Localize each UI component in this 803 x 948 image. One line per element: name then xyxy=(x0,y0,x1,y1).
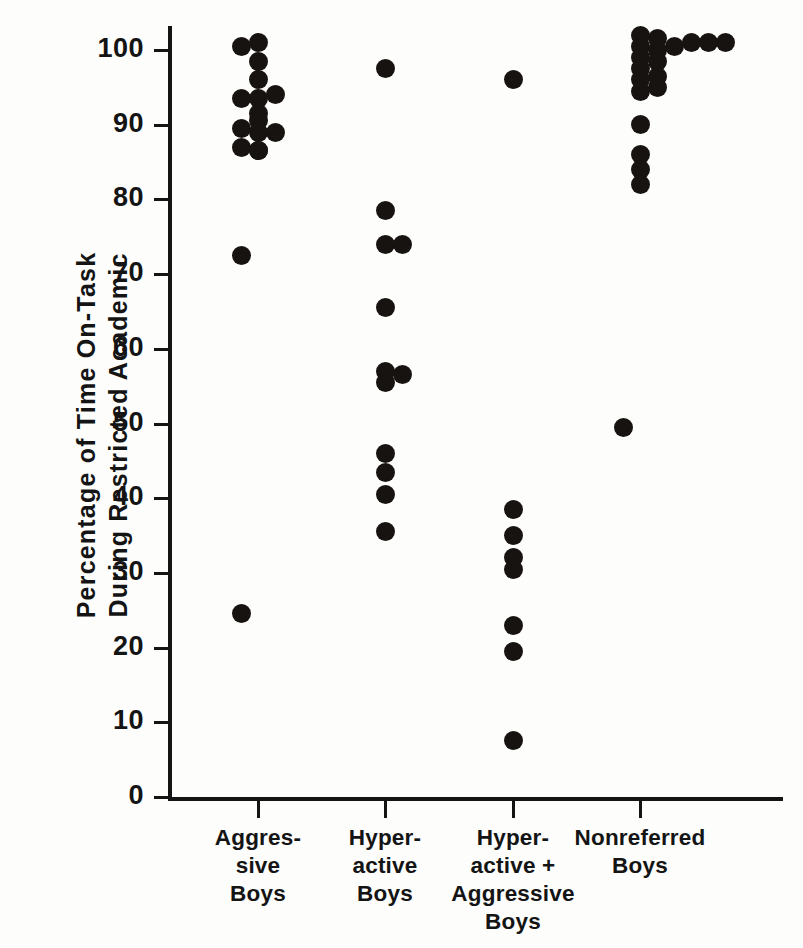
data-point xyxy=(232,119,251,138)
y-tick-label-text: 40 xyxy=(82,483,144,510)
data-point xyxy=(504,616,523,635)
y-tick-0 xyxy=(154,796,170,799)
y-tick-label-10: 10 xyxy=(82,707,144,737)
data-point xyxy=(249,123,268,142)
data-point xyxy=(716,33,735,52)
data-point xyxy=(376,373,395,392)
data-point xyxy=(631,175,650,194)
data-point xyxy=(249,141,268,160)
x-category-label-line: Boys xyxy=(565,852,715,880)
data-point xyxy=(376,235,395,254)
y-tick-label-100: 100 xyxy=(82,35,144,65)
data-point xyxy=(376,201,395,220)
y-tick-label-text: 80 xyxy=(82,184,144,211)
y-tick-60 xyxy=(154,348,170,351)
y-tick-label-text: 20 xyxy=(82,633,144,660)
y-tick-label-90: 90 xyxy=(82,110,144,140)
data-point xyxy=(249,70,268,89)
data-point xyxy=(376,463,395,482)
x-tick-1 xyxy=(384,801,387,818)
data-point xyxy=(376,522,395,541)
y-tick-40 xyxy=(154,497,170,500)
plot-area: 0102030405060708090100Aggres-siveBoysHyp… xyxy=(0,0,803,948)
data-point xyxy=(699,33,718,52)
y-tick-100 xyxy=(154,49,170,52)
y-tick-label-text: 50 xyxy=(82,409,144,436)
y-tick-label-text: 90 xyxy=(82,110,144,137)
y-tick-label-text: 0 xyxy=(82,782,144,809)
data-point xyxy=(376,298,395,317)
y-tick-90 xyxy=(154,124,170,127)
y-tick-label-20: 20 xyxy=(82,633,144,663)
data-point xyxy=(665,37,684,56)
data-point xyxy=(249,33,268,52)
data-point xyxy=(504,560,523,579)
y-tick-label-70: 70 xyxy=(82,259,144,289)
data-point xyxy=(504,526,523,545)
data-point xyxy=(376,485,395,504)
data-point xyxy=(232,604,251,623)
y-tick-label-80: 80 xyxy=(82,184,144,214)
data-point xyxy=(631,115,650,134)
data-point xyxy=(393,365,412,384)
y-tick-label-text: 70 xyxy=(82,259,144,286)
data-point xyxy=(648,78,667,97)
y-tick-20 xyxy=(154,647,170,650)
data-point xyxy=(266,85,285,104)
data-point xyxy=(232,246,251,265)
data-point xyxy=(504,500,523,519)
y-tick-label-50: 50 xyxy=(82,409,144,439)
dot-plot-figure: Percentage of Time On-Task During Restri… xyxy=(0,0,803,948)
x-category-label-line: Nonreferred xyxy=(565,824,715,852)
x-category-label-line: Boys xyxy=(438,908,588,936)
data-point xyxy=(504,731,523,750)
y-tick-10 xyxy=(154,721,170,724)
data-point xyxy=(504,70,523,89)
data-point xyxy=(376,444,395,463)
data-point xyxy=(614,418,633,437)
x-tick-2 xyxy=(512,801,515,818)
y-tick-label-text: 30 xyxy=(82,558,144,585)
data-point xyxy=(682,33,701,52)
data-point xyxy=(249,52,268,71)
y-tick-label-30: 30 xyxy=(82,558,144,588)
y-tick-30 xyxy=(154,572,170,575)
y-tick-50 xyxy=(154,423,170,426)
data-point xyxy=(232,138,251,157)
y-tick-label-text: 60 xyxy=(82,334,144,361)
y-tick-label-60: 60 xyxy=(82,334,144,364)
data-point xyxy=(232,37,251,56)
data-point xyxy=(631,82,650,101)
y-tick-80 xyxy=(154,198,170,201)
x-category-label-line: Aggressive xyxy=(438,880,588,908)
data-point xyxy=(393,235,412,254)
data-point xyxy=(232,89,251,108)
y-tick-label-0: 0 xyxy=(82,782,144,812)
x-category-label-3: NonreferredBoys xyxy=(565,824,715,880)
y-tick-label-text: 100 xyxy=(82,35,144,62)
data-point xyxy=(376,59,395,78)
x-tick-0 xyxy=(257,801,260,818)
data-point xyxy=(266,123,285,142)
y-tick-label-text: 10 xyxy=(82,707,144,734)
y-tick-label-40: 40 xyxy=(82,483,144,513)
x-tick-3 xyxy=(639,801,642,818)
data-point xyxy=(504,642,523,661)
y-tick-70 xyxy=(154,273,170,276)
